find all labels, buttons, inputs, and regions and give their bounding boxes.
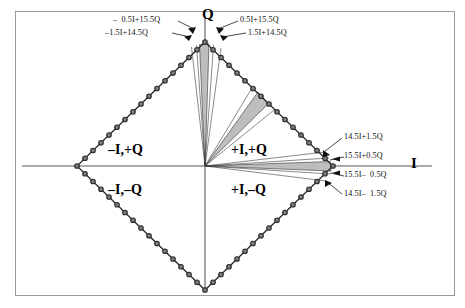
constellation-point [99,140,104,145]
constellation-point [123,210,128,215]
annotation-right-upper-outer: 14.5I+1.5Q [344,133,383,141]
constellation-point [115,125,120,130]
quadrant-label-lower-right: +I,–Q [231,183,266,197]
quadrant-label-lower-left: –I,–Q [108,183,142,197]
constellation-point [291,202,296,207]
constellation-point [139,102,144,107]
constellation-point [299,133,304,138]
constellation-point [235,257,240,262]
quadrant-label-upper-left: –I,+Q [108,143,143,157]
constellation-point [115,202,120,207]
constellation-point [171,71,176,76]
constellation-point [171,257,176,262]
constellation-point [251,86,256,91]
annotation-top-right-inner: 1.5I+14.5Q [248,29,287,37]
constellation-point [315,148,320,153]
constellation-point [123,117,128,122]
leader-top-right-outer [218,21,238,29]
constellation-point [243,78,248,83]
constellation-point [323,171,328,176]
constellation-point [331,164,336,169]
constellation-point [179,264,184,269]
constellation-point [227,264,232,269]
constellation-point [291,125,296,130]
constellation-point [203,288,208,293]
constellation-point [283,117,288,122]
constellation-point [315,179,320,184]
constellation-point [219,272,224,277]
constellation-point [99,187,104,192]
arrowhead-top-right-outer [216,27,224,34]
constellation-point [147,233,152,238]
figure-page: Q I –I,+Q +I,+Q –I,–Q +I,–Q – 0.5I+15.5Q… [0,0,465,308]
constellation-point [179,63,184,68]
constellation-point [251,241,256,246]
constellation-point [267,226,272,231]
constellation-point [187,55,192,60]
constellation-point [83,156,88,161]
constellation-point [91,179,96,184]
constellation-point [155,86,160,91]
annotation-top-left-outer: – 0.5I+15.5Q [113,16,160,24]
constellation-point [107,133,112,138]
annotation-top-left-inner: –1.5I+14.5Q [105,29,148,37]
constellation-point [275,109,280,114]
leader-right-upper-outer [324,138,342,152]
i-axis-label: I [411,156,417,171]
annotation-top-right-outer: 0.5I+15.5Q [240,16,279,24]
constellation-point [275,218,280,223]
constellation-point [243,249,248,254]
annotation-right-lower-inner: 15.5I– 0.5Q [344,171,387,179]
constellation-point [131,109,136,114]
constellation-point [203,40,208,45]
annotation-right-lower-outer: 14.5I– 1.5Q [344,190,387,198]
constellation-point [91,148,96,153]
constellation-point [195,47,200,52]
constellation-point [283,210,288,215]
constellation-point [139,226,144,231]
arrowhead-right-upper-outer [323,150,330,157]
constellation-point [163,249,168,254]
constellation-point [219,55,224,60]
annotation-right-upper-inner: 15.5I+0.5Q [344,152,383,160]
arrowhead-right-lower-outer [325,180,332,187]
constellation-point [235,71,240,76]
constellation-point [83,171,88,176]
constellation-point [307,187,312,192]
constellation-point [211,280,216,285]
constellation-point [299,195,304,200]
constellation-point [187,272,192,277]
arrowhead-top-left-outer [188,27,196,34]
arrowhead-right-upper-inner [332,157,340,162]
quadrant-label-upper-right: +I,+Q [231,143,267,157]
constellation-point [267,102,272,107]
leader-top-left-outer [178,21,194,29]
constellation-point [75,164,80,169]
decision-boundary-rays [192,45,331,181]
wedge-right-i [205,162,331,172]
constellation-point [307,140,312,145]
constellation-point [211,47,216,52]
constellation-point [131,218,136,223]
constellation-point [147,94,152,99]
constellation-point [259,233,264,238]
q-axis-label: Q [202,7,214,22]
constellation-point [155,241,160,246]
constellation-point [227,63,232,68]
arrowhead-right-lower-inner [332,171,340,176]
constellation-point [195,280,200,285]
constellation-point [163,78,168,83]
constellation-point [259,94,264,99]
